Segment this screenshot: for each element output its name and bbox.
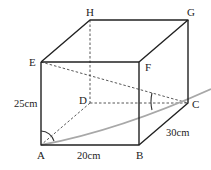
label-F: F bbox=[145, 61, 151, 73]
dimension-width: 20cm bbox=[77, 150, 100, 161]
cuboid-diagram: A B C D E F G H 25cm 20cm 30cm bbox=[0, 0, 211, 170]
label-H: H bbox=[86, 6, 94, 18]
label-C: C bbox=[192, 98, 199, 110]
label-D: D bbox=[79, 94, 87, 106]
angle-arc-C bbox=[151, 93, 152, 110]
label-G: G bbox=[187, 6, 195, 18]
dimension-height: 25cm bbox=[14, 98, 37, 109]
label-E: E bbox=[29, 56, 36, 68]
edge-DA bbox=[41, 103, 90, 145]
top-face-edges bbox=[41, 20, 188, 62]
dimension-depth: 30cm bbox=[166, 127, 189, 138]
label-A: A bbox=[37, 149, 45, 161]
label-B: B bbox=[136, 149, 143, 161]
diagonal-EC bbox=[41, 62, 188, 103]
